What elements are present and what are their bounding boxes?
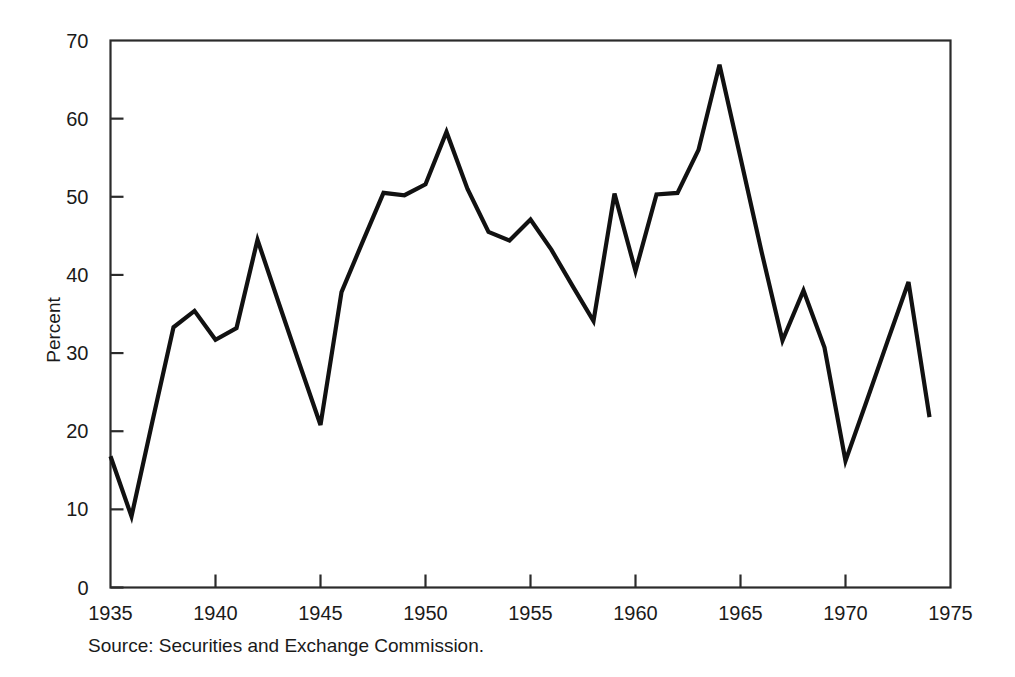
chart-figure: 010203040506070 193519401945195019551960… — [0, 0, 1015, 677]
x-tick-label: 1950 — [403, 602, 448, 624]
y-tick-label: 50 — [66, 186, 88, 208]
line-chart: 010203040506070 193519401945195019551960… — [0, 0, 1015, 677]
x-tick-label: 1935 — [88, 602, 133, 624]
x-tick-label: 1940 — [193, 602, 238, 624]
y-tick-label: 60 — [66, 108, 88, 130]
x-tick-label: 1965 — [718, 602, 763, 624]
source-note: Source: Securities and Exchange Commissi… — [88, 635, 484, 656]
x-tick-label: 1945 — [298, 602, 343, 624]
chart-background — [0, 0, 1015, 677]
x-tick-label: 1960 — [613, 602, 658, 624]
x-tick-label: 1955 — [508, 602, 553, 624]
x-tick-label: 1975 — [928, 602, 973, 624]
x-tick-label: 1970 — [823, 602, 868, 624]
y-tick-label: 30 — [66, 342, 88, 364]
y-tick-label: 40 — [66, 264, 88, 286]
y-axis-title: Percent — [43, 297, 64, 363]
y-tick-label: 70 — [66, 30, 88, 52]
y-tick-label: 20 — [66, 420, 88, 442]
y-tick-label: 0 — [77, 577, 88, 599]
y-tick-label: 10 — [66, 498, 88, 520]
